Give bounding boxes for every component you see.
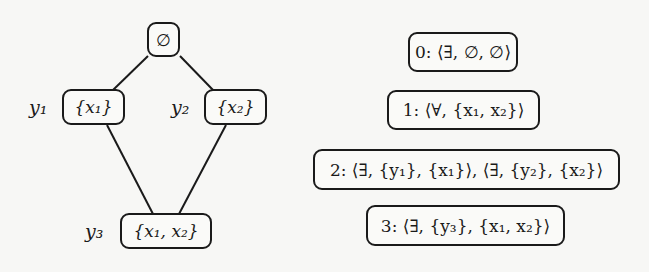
edge-x2-x1x2: [179, 125, 226, 214]
level-box-3: 3: ⟨∃, {y₃}, {x₁, x₂}⟩: [366, 205, 565, 246]
level-1-text: 1: ⟨∀, {x₁, x₂}⟩: [403, 100, 525, 120]
edge-empty-x1: [113, 56, 148, 90]
level-0-text: 0: ⟨∃, ∅, ∅⟩: [415, 42, 511, 62]
level-box-2: 2: ⟨∃, {y₁}, {x₁}⟩, ⟨∃, {y₂}, {x₂}⟩: [313, 149, 620, 190]
node-x1x2-text: {x₁, x₂}: [133, 221, 198, 241]
node-label-y3: y₃: [85, 218, 103, 244]
node-label-y2: y₂: [171, 94, 189, 120]
node-x2: {x₂}: [204, 89, 267, 125]
level-box-1: 1: ⟨∀, {x₁, x₂}⟩: [387, 90, 540, 130]
edge-empty-x2: [180, 56, 213, 90]
node-x1-text: {x₁}: [74, 97, 112, 117]
node-x2-text: {x₂}: [216, 97, 254, 117]
edge-x1-x1x2: [107, 125, 153, 214]
node-empty-set: ∅: [147, 22, 180, 57]
level-2-text: 2: ⟨∃, {y₁}, {x₁}⟩, ⟨∃, {y₂}, {x₂}⟩: [330, 160, 603, 180]
node-x1x2: {x₁, x₂}: [120, 213, 212, 249]
level-box-0: 0: ⟨∃, ∅, ∅⟩: [408, 32, 518, 72]
node-x1: {x₁}: [62, 89, 125, 125]
level-3-text: 3: ⟨∃, {y₃}, {x₁, x₂}⟩: [381, 216, 550, 236]
node-empty-set-text: ∅: [156, 30, 171, 50]
node-label-y1: y₁: [29, 94, 47, 120]
